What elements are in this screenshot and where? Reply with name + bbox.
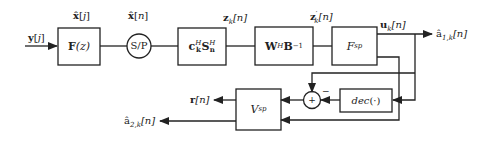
filter-block: F(z) bbox=[58, 28, 100, 65]
block-diagram: y[j] x̂[j] x̂[n] zk[n] z′k[n] uk[n] â1,k… bbox=[0, 0, 487, 141]
despread-block: cHkSHn bbox=[178, 28, 226, 65]
z-k-label: zk[n] bbox=[223, 13, 247, 26]
r-output-label: r[n] bbox=[190, 95, 210, 105]
x-hat-j-label: x̂[j] bbox=[73, 11, 90, 21]
z-k-prime-label: z′k[n] bbox=[310, 11, 333, 25]
whiten-block: WH B−1 bbox=[255, 27, 313, 65]
a2-output-label: â2,k[n] bbox=[124, 116, 155, 129]
x-hat-n-label: x̂[n] bbox=[128, 11, 148, 21]
minus-sign: − bbox=[322, 87, 330, 96]
a1-output-label: â1,k[n] bbox=[436, 29, 467, 42]
input-signal-label: y[j] bbox=[28, 33, 45, 43]
tap-to-dec-arrow bbox=[393, 34, 415, 100]
u-k-label: uk[n] bbox=[380, 20, 406, 33]
fsp-block: Fsp bbox=[332, 27, 377, 65]
sum-junction: + bbox=[304, 92, 320, 108]
vsp-block: Vsp bbox=[236, 89, 281, 130]
sp-converter: S/P bbox=[127, 34, 151, 58]
dec-block: dec(·) bbox=[340, 89, 392, 112]
